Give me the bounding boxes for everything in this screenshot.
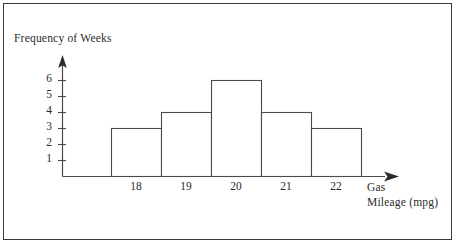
x-axis-arrow-icon	[384, 171, 399, 181]
table-row	[162, 113, 212, 177]
table-row	[212, 81, 262, 177]
table-row	[112, 129, 162, 177]
table-row	[262, 113, 312, 177]
histogram-plot-area	[0, 0, 459, 247]
histogram-figure: Frequency of Weeks Gas Mileage (mpg) 6 5…	[0, 0, 459, 247]
table-row	[312, 129, 362, 177]
y-axis	[58, 55, 67, 177]
histogram-bars	[112, 81, 362, 177]
